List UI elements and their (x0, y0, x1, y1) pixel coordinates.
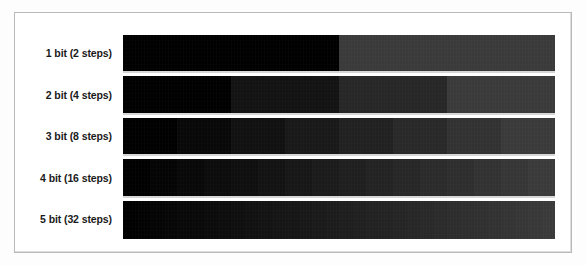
gradient-step (447, 159, 474, 197)
gradient-step (150, 159, 177, 197)
gradient-step (285, 201, 299, 239)
gradient-step (123, 159, 150, 197)
gradient-step (299, 201, 313, 239)
gradient-step (326, 201, 340, 239)
gradient-step (366, 159, 393, 197)
gradient-step (123, 76, 231, 114)
gradient-step (380, 201, 394, 239)
gradient-step (150, 201, 164, 239)
gradient-step (245, 201, 259, 239)
gradient-step (515, 201, 529, 239)
gradient-step (339, 159, 366, 197)
gradient-step (312, 201, 326, 239)
gradient-step (285, 159, 312, 197)
gradient-step (528, 159, 555, 197)
gradient-bar-3bit (123, 118, 555, 156)
gradient-step (474, 159, 501, 197)
gradient-step (339, 76, 447, 114)
gradient-row: 5 bit (32 steps) (22, 199, 556, 240)
gradient-step (393, 201, 407, 239)
gradient-step (461, 201, 475, 239)
gradient-step (434, 201, 448, 239)
row-separator (123, 154, 555, 156)
gradient-step (339, 35, 555, 73)
row-separator (123, 196, 555, 198)
gradient-step (191, 201, 205, 239)
row-label-2bit: 2 bit (4 steps) (22, 90, 123, 101)
gradient-step (366, 201, 380, 239)
row-separator (123, 71, 555, 73)
row-separator (123, 113, 555, 115)
row-label-3bit: 3 bit (8 steps) (22, 131, 123, 142)
row-label-4bit: 4 bit (16 steps) (22, 173, 123, 184)
gradient-step (393, 118, 447, 156)
gradient-step (447, 118, 501, 156)
gradient-row: 2 bit (4 steps) (22, 75, 556, 116)
gradient-step (420, 159, 447, 197)
gradient-step (231, 118, 285, 156)
gradient-step (542, 201, 556, 239)
gradient-bar-5bit (123, 201, 555, 239)
gradient-step (137, 201, 151, 239)
gradient-step (123, 35, 339, 73)
gradient-step (501, 201, 515, 239)
gradient-step (231, 201, 245, 239)
gradient-step (123, 118, 177, 156)
gradient-step (231, 76, 339, 114)
gradient-rows-container: 1 bit (2 steps)2 bit (4 steps)3 bit (8 s… (0, 0, 586, 265)
gradient-step (488, 201, 502, 239)
gradient-step (177, 159, 204, 197)
gradient-step (272, 201, 286, 239)
gradient-step (447, 201, 461, 239)
gradient-step (339, 118, 393, 156)
gradient-step (204, 201, 218, 239)
gradient-step (218, 201, 232, 239)
gradient-step (285, 118, 339, 156)
gradient-step (528, 201, 542, 239)
gradient-row: 3 bit (8 steps) (22, 116, 556, 157)
gradient-step (231, 159, 258, 197)
gradient-step (312, 159, 339, 197)
row-label-1bit: 1 bit (2 steps) (22, 48, 123, 59)
figure-root: 1 bit (2 steps)2 bit (4 steps)3 bit (8 s… (0, 0, 586, 265)
gradient-step (339, 201, 353, 239)
gradient-step (447, 76, 555, 114)
gradient-step (501, 159, 528, 197)
gradient-step (164, 201, 178, 239)
gradient-step (353, 201, 367, 239)
gradient-step (204, 159, 231, 197)
gradient-step (177, 201, 191, 239)
gradient-step (474, 201, 488, 239)
gradient-step (123, 201, 137, 239)
row-label-5bit: 5 bit (32 steps) (22, 214, 123, 225)
gradient-row: 1 bit (2 steps) (22, 33, 556, 74)
gradient-step (258, 201, 272, 239)
gradient-step (407, 201, 421, 239)
gradient-step (393, 159, 420, 197)
gradient-step (501, 118, 555, 156)
gradient-step (420, 201, 434, 239)
gradient-bar-1bit (123, 35, 555, 73)
gradient-step (177, 118, 231, 156)
gradient-bar-4bit (123, 159, 555, 197)
gradient-row: 4 bit (16 steps) (22, 158, 556, 199)
gradient-bar-2bit (123, 76, 555, 114)
gradient-step (258, 159, 285, 197)
